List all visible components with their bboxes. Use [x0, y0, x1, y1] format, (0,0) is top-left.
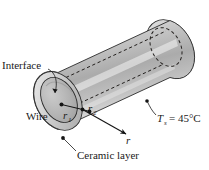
ceramic-layer-leader [63, 138, 76, 151]
label-ceramic-layer: Ceramic layer [77, 149, 139, 161]
label-temp-symbol: T [157, 112, 164, 124]
label-wire: Wire [26, 110, 48, 122]
label-r2-subscript: 2 [93, 109, 97, 117]
cylinder-diagram-svg: Interface Wire Ceramic layer r 1 r 2 r T… [0, 0, 209, 170]
ceramic-layer-anchor [61, 136, 65, 140]
surface-temp-anchor [145, 99, 149, 103]
label-temp-value: = 45°C [169, 112, 201, 124]
label-interface: Interface [2, 59, 41, 71]
label-radial-axis: r [126, 134, 131, 146]
label-r1-subscript: 1 [68, 116, 72, 124]
surface-temp-leader [147, 101, 156, 115]
label-surface-temperature: T s = 45°C [157, 112, 201, 127]
figure-container: Interface Wire Ceramic layer r 1 r 2 r T… [0, 0, 209, 170]
label-temp-subscript: s [164, 119, 167, 127]
